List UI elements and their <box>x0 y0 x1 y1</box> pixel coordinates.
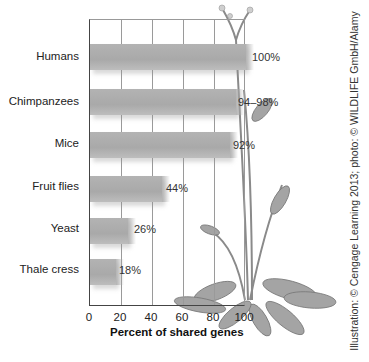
category-label: Chimpanzees <box>9 95 79 107</box>
x-tick: 100 <box>234 311 253 323</box>
x-tick: 20 <box>114 311 127 323</box>
x-tick: 60 <box>176 311 189 323</box>
x-tick: 0 <box>86 311 92 323</box>
x-tick: 80 <box>207 311 220 323</box>
x-tick: 40 <box>145 311 158 323</box>
category-label: Yeast <box>51 222 79 234</box>
value-label: 100% <box>252 51 280 63</box>
bar-fruit-flies <box>90 176 162 202</box>
bar-mice <box>90 132 230 158</box>
bar-thale-cress <box>90 259 116 285</box>
bar-humans <box>90 44 246 70</box>
bar-chimpanzees <box>90 89 236 115</box>
value-label: 92% <box>233 139 255 151</box>
bar-yeast <box>90 218 128 244</box>
image-credit: Illustration: © Cengage Learning 2013; p… <box>348 11 360 350</box>
category-label: Humans <box>36 50 79 62</box>
value-label: 94–98% <box>238 96 278 108</box>
category-label: Fruit flies <box>32 180 79 192</box>
value-label: 18% <box>119 264 141 276</box>
category-label: Thale cress <box>20 263 79 275</box>
category-label: Mice <box>55 137 79 149</box>
x-axis-title: Percent of shared genes <box>110 326 244 338</box>
value-label: 44% <box>166 182 188 194</box>
plot-area <box>89 19 245 306</box>
value-label: 26% <box>134 223 156 235</box>
